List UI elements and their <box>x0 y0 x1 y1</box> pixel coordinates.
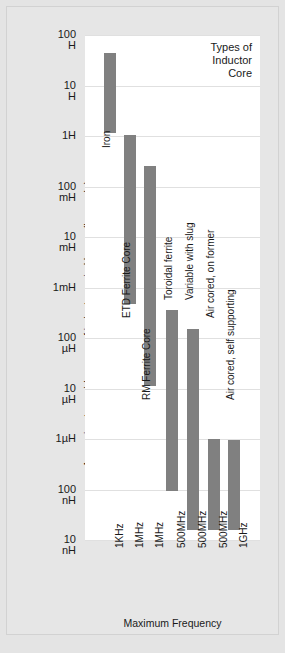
bar <box>228 440 240 530</box>
y-tick-label: 1mH <box>0 282 76 293</box>
series-label: Air cored, self supporting <box>225 289 236 400</box>
chart-figure: Approximate usable range of inductance i… <box>0 0 285 653</box>
y-tick-label: 100µH <box>0 332 76 354</box>
x-tick-label: 1MHz <box>154 534 165 548</box>
chart-title: Types of Inductor Core <box>210 41 252 80</box>
y-tick-label: 100mH <box>0 181 76 203</box>
y-tick-label: 10µH <box>0 383 76 405</box>
series-label: Iron <box>101 131 112 148</box>
x-axis-title: Maximum Frequency <box>85 617 260 629</box>
plot-area: IronETD Ferrite CoreRM Ferrite CoreToroi… <box>85 35 260 540</box>
series-label: Toroidal ferrite <box>163 237 174 300</box>
chart-title-line-1: Types of <box>210 41 252 54</box>
chart-title-line-2: Inductor <box>210 54 252 67</box>
gridline <box>85 35 260 36</box>
series-label: RM Ferrite Core <box>141 328 152 400</box>
x-tick-label: 1KHz <box>114 534 125 548</box>
series-label: Variable with slug <box>184 222 195 300</box>
y-tick-label: 1µH <box>0 433 76 444</box>
y-tick-label: 1H <box>0 130 76 141</box>
y-tick-label: 10nH <box>0 534 76 556</box>
x-tick-label: 500MHz <box>197 534 208 548</box>
series-label: ETD Ferrite Core <box>121 242 132 318</box>
chart-title-line-3: Core <box>210 67 252 80</box>
y-tick-label: 100nH <box>0 484 76 506</box>
gridline <box>85 540 260 541</box>
x-tick-label: 1MHz <box>134 534 145 548</box>
x-tick-label: 1GHz <box>238 534 249 548</box>
gridline <box>85 187 260 188</box>
series-label: Air cored, on former <box>205 230 216 318</box>
bar <box>166 310 178 491</box>
x-tick-label: 500MHz <box>176 534 187 548</box>
x-tick-label: 500MHz <box>218 534 229 548</box>
bar <box>104 53 116 133</box>
bar <box>187 329 199 530</box>
y-tick-label: 10mH <box>0 231 76 253</box>
y-tick-label: 100H <box>0 29 76 51</box>
y-tick-label: 10H <box>0 80 76 102</box>
